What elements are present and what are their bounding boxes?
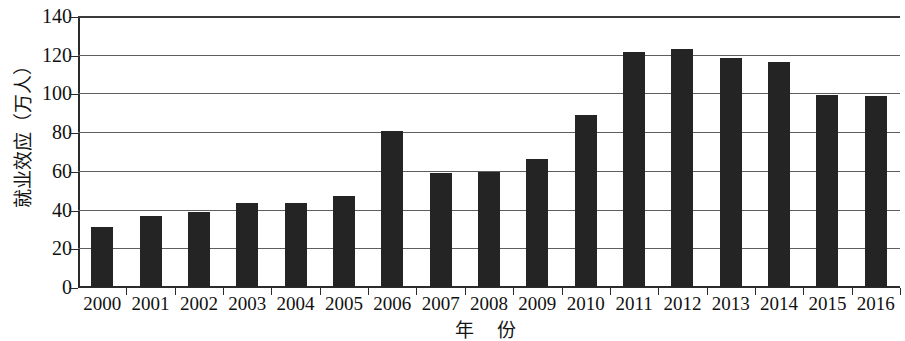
gridline [78, 55, 900, 56]
bar[interactable] [188, 212, 210, 287]
bar[interactable] [768, 62, 790, 287]
gridline [78, 16, 900, 18]
y-tick-label: 0 [28, 277, 72, 297]
y-tick-label: 140 [28, 6, 72, 26]
plot-area [78, 17, 900, 288]
x-axis-title: 年 份 [0, 315, 905, 341]
y-tick-label: 20 [28, 238, 72, 258]
y-tick-label: 40 [28, 200, 72, 220]
y-tick-mark [69, 94, 78, 95]
bar[interactable] [478, 172, 500, 287]
bar[interactable] [91, 227, 113, 287]
y-tick-mark [69, 249, 78, 250]
bar[interactable] [575, 115, 597, 287]
bar[interactable] [865, 96, 887, 287]
bar[interactable] [526, 159, 548, 287]
y-tick-mark [69, 288, 78, 289]
bar[interactable] [816, 95, 838, 287]
y-tick-mark [69, 211, 78, 212]
bar[interactable] [140, 216, 162, 287]
bar-chart-figure: 就业效应（万人） 020406080100120140 200020012002… [0, 0, 905, 341]
y-tick-label: 100 [28, 83, 72, 103]
bar[interactable] [430, 173, 452, 287]
bar[interactable] [720, 58, 742, 287]
y-tick-mark [69, 17, 78, 18]
bar[interactable] [236, 203, 258, 287]
y-tick-mark [69, 172, 78, 173]
y-tick-mark [69, 56, 78, 57]
y-tick-mark [69, 133, 78, 134]
bar[interactable] [285, 203, 307, 287]
x-tick-label: 2016 [848, 292, 904, 316]
y-axis-tick-labels: 020406080100120140 [22, 0, 72, 341]
y-tick-label: 60 [28, 161, 72, 181]
bar[interactable] [671, 49, 693, 287]
bar[interactable] [381, 131, 403, 287]
y-tick-label: 80 [28, 122, 72, 142]
bar[interactable] [623, 52, 645, 287]
bar[interactable] [333, 196, 355, 287]
y-tick-label: 120 [28, 45, 72, 65]
